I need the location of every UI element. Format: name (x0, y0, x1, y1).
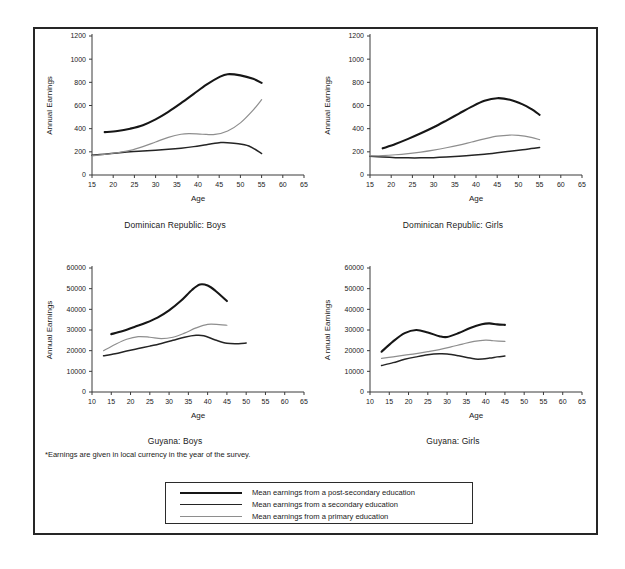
x-axis-title: Age (469, 194, 484, 203)
y-tick-label: 10000 (67, 368, 87, 375)
x-tick-label: 45 (501, 398, 509, 405)
x-tick-label: 30 (152, 181, 160, 188)
x-tick-label: 55 (536, 181, 544, 188)
x-tick-label: 55 (262, 398, 270, 405)
series-line-post-secondary (383, 98, 540, 148)
x-tick-label: 35 (173, 181, 181, 188)
figure-root: 0200400600800100012001520253035404550556… (0, 0, 625, 569)
legend-line-primary-icon (180, 516, 242, 517)
x-tick-label: 60 (559, 398, 567, 405)
x-tick-label: 50 (237, 181, 245, 188)
x-tick-label: 20 (405, 398, 413, 405)
x-tick-label: 55 (540, 398, 548, 405)
y-tick-label: 40000 (67, 306, 87, 313)
x-tick-label: 45 (215, 181, 223, 188)
y-tick-label: 1000 (70, 56, 86, 63)
legend-label-post-secondary: Mean earnings from a post-secondary educ… (252, 488, 415, 497)
series-line-post-secondary (382, 323, 505, 351)
x-axis-title: Age (191, 411, 206, 420)
x-tick-label: 20 (127, 398, 135, 405)
y-tick-label: 20000 (345, 347, 365, 354)
panel-dominican-republic-boys: 0200400600800100012001520253035404550556… (40, 30, 310, 235)
legend-label-primary: Mean earnings from a primary education (252, 512, 388, 521)
x-tick-label: 15 (107, 398, 115, 405)
panel-guyana-boys: 0100002000030000400005000060000101520253… (40, 262, 310, 457)
y-axis-title: A nnual Earnings (323, 300, 332, 361)
x-tick-label: 35 (462, 398, 470, 405)
y-tick-label: 800 (352, 79, 364, 86)
x-tick-label: 40 (204, 398, 212, 405)
y-tick-label: 60000 (67, 264, 87, 271)
x-tick-label: 25 (146, 398, 154, 405)
x-tick-label: 25 (409, 181, 417, 188)
chart-guyana-boys: 0100002000030000400005000060000101520253… (40, 262, 310, 432)
y-tick-label: 400 (352, 125, 364, 132)
series-line-primary (92, 100, 262, 156)
x-tick-label: 15 (366, 181, 374, 188)
x-tick-label: 50 (520, 398, 528, 405)
x-tick-label: 30 (165, 398, 173, 405)
x-tick-label: 30 (430, 181, 438, 188)
y-tick-label: 50000 (67, 285, 87, 292)
x-tick-label: 15 (88, 181, 96, 188)
x-tick-label: 50 (242, 398, 250, 405)
x-tick-label: 35 (184, 398, 192, 405)
x-tick-label: 10 (88, 398, 96, 405)
x-tick-label: 65 (578, 181, 586, 188)
y-tick-label: 200 (352, 148, 364, 155)
legend-line-post-secondary-icon (180, 492, 242, 494)
x-tick-label: 60 (557, 181, 565, 188)
y-tick-label: 0 (82, 171, 86, 178)
x-tick-label: 65 (300, 398, 308, 405)
y-tick-label: 600 (352, 102, 364, 109)
panel-caption-dominican-republic-girls: Dominican Republic: Girls (318, 220, 588, 230)
x-axis-title: Age (469, 411, 484, 420)
legend-item-secondary: Mean earnings from a secondary education (166, 499, 472, 510)
figure-legend: Mean earnings from a post-secondary educ… (165, 482, 473, 524)
series-line-post-secondary (105, 74, 262, 132)
y-axis-title: Annual Earnings (45, 76, 54, 135)
series-line-primary (370, 135, 540, 156)
x-tick-label: 15 (385, 398, 393, 405)
legend-line-secondary-icon (180, 504, 242, 505)
x-tick-label: 45 (223, 398, 231, 405)
x-tick-label: 50 (515, 181, 523, 188)
y-tick-label: 30000 (345, 326, 365, 333)
series-line-secondary (370, 147, 540, 157)
y-tick-label: 0 (360, 388, 364, 395)
legend-item-post-secondary: Mean earnings from a post-secondary educ… (166, 487, 472, 498)
x-tick-label: 20 (387, 181, 395, 188)
series-line-primary (382, 340, 505, 358)
y-tick-label: 800 (74, 79, 86, 86)
panel-caption-dominican-republic-boys: Dominican Republic: Boys (40, 220, 310, 230)
series-line-secondary (104, 335, 247, 356)
chart-guyana-girls: 0100002000030000400005000060000101520253… (318, 262, 588, 432)
x-tick-label: 40 (194, 181, 202, 188)
y-tick-label: 200 (74, 148, 86, 155)
series-line-post-secondary (111, 284, 227, 334)
x-tick-label: 30 (443, 398, 451, 405)
x-tick-label: 60 (279, 181, 287, 188)
chart-dominican-republic-boys: 0200400600800100012001520253035404550556… (40, 30, 310, 215)
legend-label-secondary: Mean earnings from a secondary education (252, 500, 398, 509)
y-tick-label: 20000 (67, 347, 87, 354)
x-tick-label: 65 (300, 181, 308, 188)
y-tick-label: 30000 (67, 326, 87, 333)
panel-caption-guyana-girls: Guyana: Girls (318, 436, 588, 446)
panel-caption-guyana-boys: Guyana: Boys (40, 436, 310, 446)
panel-dominican-republic-girls: 0200400600800100012001520253035404550556… (318, 30, 588, 235)
x-axis-title: Age (191, 194, 206, 203)
chart-dominican-republic-girls: 0200400600800100012001520253035404550556… (318, 30, 588, 215)
y-tick-label: 50000 (345, 285, 365, 292)
y-tick-label: 1200 (348, 32, 364, 39)
x-tick-label: 45 (493, 181, 501, 188)
y-tick-label: 400 (74, 125, 86, 132)
x-tick-label: 25 (424, 398, 432, 405)
x-tick-label: 40 (482, 398, 490, 405)
series-line-secondary (92, 142, 262, 155)
y-tick-label: 0 (82, 388, 86, 395)
y-tick-label: 40000 (345, 306, 365, 313)
y-tick-label: 0 (360, 171, 364, 178)
y-tick-label: 10000 (345, 368, 365, 375)
y-tick-label: 600 (74, 102, 86, 109)
